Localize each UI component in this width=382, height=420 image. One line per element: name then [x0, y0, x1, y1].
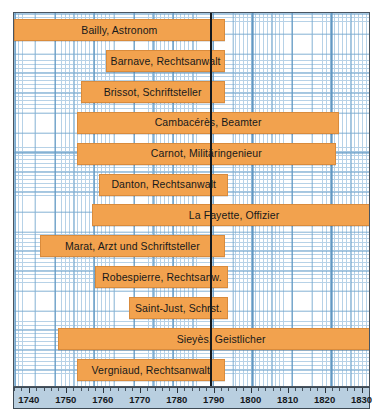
timeline-bar[interactable]: Vergniaud, Rechtsanwalt	[77, 359, 225, 381]
timeline-bar[interactable]: Robespierre, Rechtsanw.	[95, 266, 228, 288]
axis-tick-major	[251, 388, 252, 393]
timeline-bar-label: Robespierre, Rechtsanw.	[102, 272, 222, 283]
axis-tick-major	[325, 388, 326, 393]
axis-tick-major	[66, 388, 67, 393]
axis-tick-major	[288, 388, 289, 393]
timeline-bar[interactable]: La Fayette, Offizier	[92, 204, 370, 226]
timeline-bar-label: Sieyès, Geistlicher	[177, 334, 266, 345]
timeline-chart: Bailly, AstronomBarnave, RechtsanwaltBri…	[0, 0, 382, 420]
axis-tick-minor	[184, 388, 185, 391]
axis-tick-marks	[14, 388, 369, 393]
axis-tick-label: 1740	[18, 394, 39, 405]
axis-tick-minor	[369, 388, 370, 391]
axis-tick-minor	[310, 388, 311, 391]
axis-tick-label: 1800	[240, 394, 261, 405]
timeline-bar[interactable]: Brissot, Schriftsteller	[81, 81, 225, 103]
timeline-bar[interactable]: Bailly, Astronom	[14, 19, 225, 41]
axis-tick-label: 1790	[203, 394, 224, 405]
timeline-bar-label: Bailly, Astronom	[81, 25, 157, 36]
timeline-bar[interactable]: Cambacérès, Beamter	[77, 112, 340, 134]
axis-tick-minor	[295, 388, 296, 391]
axis-tick-minor	[236, 388, 237, 391]
axis-tick-minor	[192, 388, 193, 391]
axis-tick-minor	[199, 388, 200, 391]
axis-tick-minor	[81, 388, 82, 391]
axis-tick-label: 1810	[277, 394, 298, 405]
axis-tick-minor	[73, 388, 74, 391]
axis-tick-minor	[339, 388, 340, 391]
axis-tick-minor	[332, 388, 333, 391]
axis-tick-minor	[347, 388, 348, 391]
axis-tick-minor	[302, 388, 303, 391]
timeline-bar-label: Danton, Rechtsanwalt	[111, 179, 216, 190]
timeline-bar-label: Cambacérès, Beamter	[155, 117, 262, 128]
axis-tick-label: 1780	[166, 394, 187, 405]
timeline-bar-label: Brissot, Schriftsteller	[104, 87, 202, 98]
axis-tick-major	[177, 388, 178, 393]
axis-tick-minor	[88, 388, 89, 391]
axis-tick-major	[29, 388, 30, 393]
axis-tick-minor	[147, 388, 148, 391]
axis-tick-minor	[132, 388, 133, 391]
timeline-bar-label: Carnot, Militäringenieur	[151, 148, 262, 159]
timeline-bar[interactable]: Barnave, Rechtsanwalt	[106, 50, 224, 72]
axis-tick-minor	[221, 388, 222, 391]
timeline-bar[interactable]: Carnot, Militäringenieur	[77, 143, 336, 165]
timeline-bar-label: La Fayette, Offizier	[189, 210, 280, 221]
axis-tick-major	[362, 388, 363, 393]
axis-tick-minor	[36, 388, 37, 391]
axis-tick-minor	[169, 388, 170, 391]
axis-tick-label: 1750	[55, 394, 76, 405]
axis-tick-label: 1760	[92, 394, 113, 405]
revolution-line	[210, 13, 212, 386]
timeline-bar-label: Marat, Arzt und Schriftsteller	[65, 241, 200, 252]
axis-tick-minor	[243, 388, 244, 391]
axis-tick-minor	[162, 388, 163, 391]
axis-tick-minor	[110, 388, 111, 391]
axis-tick-minor	[354, 388, 355, 391]
axis-tick-minor	[273, 388, 274, 391]
timeline-bar[interactable]: Sieyès, Geistlicher	[58, 328, 370, 350]
axis-tick-minor	[265, 388, 266, 391]
axis-tick-minor	[280, 388, 281, 391]
axis-tick-major	[103, 388, 104, 393]
axis-tick-minor	[95, 388, 96, 391]
plot-area: Bailly, AstronomBarnave, RechtsanwaltBri…	[13, 12, 370, 387]
axis-tick-minor	[228, 388, 229, 391]
axis-tick-label: 1770	[129, 394, 150, 405]
axis-tick-minor	[14, 388, 15, 391]
axis-tick-minor	[44, 388, 45, 391]
timeline-bar-label: Barnave, Rechtsanwalt	[111, 56, 221, 67]
x-axis: 1740175017601770178017901800181018201830	[13, 387, 370, 409]
axis-tick-minor	[206, 388, 207, 391]
axis-tick-minor	[155, 388, 156, 391]
axis-tick-major	[140, 388, 141, 393]
axis-tick-minor	[125, 388, 126, 391]
axis-tick-major	[214, 388, 215, 393]
axis-tick-minor	[118, 388, 119, 391]
timeline-bar[interactable]: Marat, Arzt und Schriftsteller	[40, 235, 225, 257]
axis-tick-label: 1820	[314, 394, 335, 405]
axis-tick-minor	[51, 388, 52, 391]
axis-tick-minor	[58, 388, 59, 391]
axis-tick-label: 1830	[351, 394, 372, 405]
axis-tick-minor	[21, 388, 22, 391]
timeline-bar[interactable]: Saint-Just, Schrst.	[129, 297, 229, 319]
timeline-bar-label: Vergniaud, Rechtsanwalt	[92, 365, 210, 376]
axis-tick-minor	[317, 388, 318, 391]
axis-tick-minor	[258, 388, 259, 391]
